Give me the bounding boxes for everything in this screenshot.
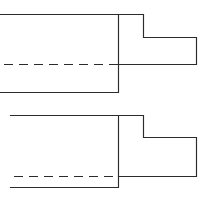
upper-shaft-body-outline bbox=[0, 15, 119, 93]
figure-top bbox=[0, 15, 197, 93]
figure-bottom bbox=[11, 116, 197, 188]
technical-drawing-canvas bbox=[0, 0, 206, 202]
upper-shaft-step-outline bbox=[119, 15, 197, 65]
lower-shaft-step-outline bbox=[119, 116, 197, 177]
drawing-sheet bbox=[0, 0, 206, 202]
